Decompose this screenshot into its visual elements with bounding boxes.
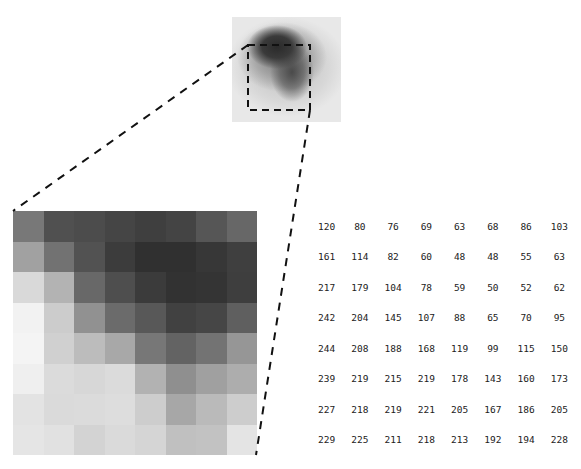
pixel-cell: [196, 364, 227, 395]
pixel-value: 173: [543, 364, 576, 395]
pixel-cell: [44, 242, 75, 273]
pixel-cell: [74, 242, 105, 273]
pixel-cell: [135, 333, 166, 364]
pixel-cell: [44, 272, 75, 303]
pixel-cell: [74, 425, 105, 456]
pixel-value: 178: [443, 364, 476, 395]
pixel-value: 221: [410, 394, 443, 425]
pixel-value: 215: [377, 364, 410, 395]
pixel-cell: [166, 272, 197, 303]
pixel-cell: [44, 333, 75, 364]
pixel-value: 115: [510, 333, 543, 364]
pixel-value: 63: [543, 242, 576, 273]
pixel-value: 59: [443, 272, 476, 303]
pixel-cell: [196, 425, 227, 456]
pixel-value: 95: [543, 303, 576, 334]
pixel-cell: [166, 425, 197, 456]
pixel-value: 76: [377, 211, 410, 242]
pixel-value: 168: [410, 333, 443, 364]
pixel-cell: [74, 211, 105, 242]
pixel-cell: [13, 364, 44, 395]
pixel-cell: [196, 303, 227, 334]
pixel-cell: [196, 242, 227, 273]
pixel-value: 225: [343, 425, 376, 456]
pixel-value: 205: [443, 394, 476, 425]
pixel-cell: [105, 303, 136, 334]
pixel-cell: [105, 364, 136, 395]
pixel-cell: [13, 303, 44, 334]
pixel-cell: [135, 425, 166, 456]
pixel-value: 161: [310, 242, 343, 273]
pixel-value: 218: [410, 425, 443, 456]
pixel-cell: [105, 242, 136, 273]
pixel-value: 88: [443, 303, 476, 334]
pixel-cell: [74, 333, 105, 364]
pixel-value: 219: [377, 394, 410, 425]
pixel-value: 48: [443, 242, 476, 273]
pixel-value: 86: [510, 211, 543, 242]
pixel-cell: [227, 364, 258, 395]
pixel-cell: [166, 333, 197, 364]
pixel-value: 62: [543, 272, 576, 303]
pixel-value: 229: [310, 425, 343, 456]
pixel-value: 78: [410, 272, 443, 303]
pixel-cell: [135, 272, 166, 303]
pixel-value: 48: [476, 242, 509, 273]
pixel-cell: [166, 242, 197, 273]
pixel-value: 104: [377, 272, 410, 303]
pixel-value: 194: [510, 425, 543, 456]
pixel-value: 219: [343, 364, 376, 395]
pixel-value: 188: [377, 333, 410, 364]
pixel-value: 204: [343, 303, 376, 334]
pixel-value: 99: [476, 333, 509, 364]
pixel-value: 186: [510, 394, 543, 425]
pixel-cell: [135, 303, 166, 334]
pixel-value: 68: [476, 211, 509, 242]
pixel-cell: [196, 333, 227, 364]
pixel-value-matrix: 1208076696368861031611148260484855632171…: [310, 211, 576, 455]
pixel-value: 205: [543, 394, 576, 425]
source-image-thumbnail: [232, 17, 341, 122]
pixel-cell: [135, 242, 166, 273]
pixel-cell: [44, 425, 75, 456]
pixel-value: 50: [476, 272, 509, 303]
pixel-value: 143: [476, 364, 509, 395]
pixel-value: 179: [343, 272, 376, 303]
pixel-value: 52: [510, 272, 543, 303]
pixel-cell: [196, 272, 227, 303]
pixel-value: 211: [377, 425, 410, 456]
pixel-cell: [166, 211, 197, 242]
pixel-cell: [44, 211, 75, 242]
pixel-value: 150: [543, 333, 576, 364]
pixel-cell: [105, 425, 136, 456]
pixel-value: 239: [310, 364, 343, 395]
pixel-value: 192: [476, 425, 509, 456]
magnified-pixel-grid: [13, 211, 257, 455]
pixel-cell: [105, 272, 136, 303]
pixel-value: 213: [443, 425, 476, 456]
pixel-cell: [227, 394, 258, 425]
connector-line-right: [256, 110, 310, 455]
pixel-value: 228: [543, 425, 576, 456]
connector-line-left: [13, 45, 248, 211]
pixel-value: 69: [410, 211, 443, 242]
pixel-value: 208: [343, 333, 376, 364]
pixel-value: 120: [310, 211, 343, 242]
pixel-value: 160: [510, 364, 543, 395]
pixel-cell: [227, 272, 258, 303]
pixel-value: 227: [310, 394, 343, 425]
pixel-value: 242: [310, 303, 343, 334]
pixel-value: 82: [377, 242, 410, 273]
pixel-cell: [44, 394, 75, 425]
pixel-cell: [13, 211, 44, 242]
pixel-cell: [166, 364, 197, 395]
pixel-cell: [13, 394, 44, 425]
pixel-value: 218: [343, 394, 376, 425]
pixel-value: 70: [510, 303, 543, 334]
pixel-cell: [44, 303, 75, 334]
pixel-value: 114: [343, 242, 376, 273]
pixel-cell: [166, 394, 197, 425]
pixel-value: 119: [443, 333, 476, 364]
pixel-cell: [227, 242, 258, 273]
pixel-cell: [13, 333, 44, 364]
